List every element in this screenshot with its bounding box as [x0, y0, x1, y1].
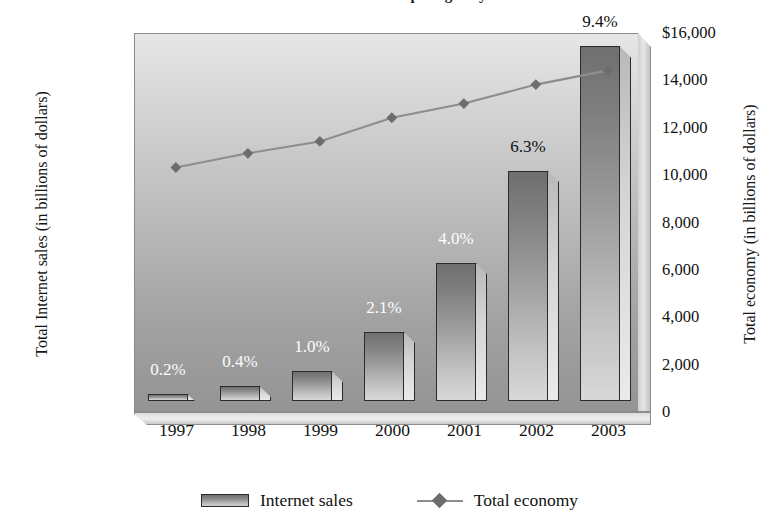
- x-label-2002: 2002: [501, 420, 573, 441]
- line-marker-1998: [242, 148, 253, 159]
- line-series: [134, 33, 651, 425]
- right-axis-ticks: $16,00014,00012,00010,0008,0006,0004,000…: [655, 0, 765, 523]
- right-tick-label: 10,000: [655, 167, 765, 183]
- line-marker-2002: [530, 79, 541, 90]
- right-tick-label: 8,000: [655, 215, 765, 231]
- line-diamond-icon: [417, 494, 463, 507]
- chart-legend: Internet sales Total economy: [0, 486, 779, 514]
- right-tick-label: 6,000: [655, 262, 765, 278]
- line-marker-2003: [602, 65, 613, 76]
- left-axis-ticks: $1,4001,2001,0008006004002000: [0, 0, 129, 523]
- line-marker-1997: [170, 162, 181, 173]
- chart-figure: Commerce and Superhighway Total Internet…: [0, 0, 779, 523]
- right-tick-label: 0: [655, 404, 765, 420]
- x-label-1998: 1998: [213, 420, 285, 441]
- legend-label-internet-sales: Internet sales: [260, 490, 353, 511]
- right-tick-label: $16,000: [655, 25, 765, 41]
- x-axis-labels: 1997199819992000200120022003: [134, 420, 651, 446]
- right-tick-label: 2,000: [655, 357, 765, 373]
- line-marker-2001: [458, 98, 469, 109]
- right-tick-label: 14,000: [655, 72, 765, 88]
- bar-data-label: 9.4%: [582, 12, 617, 32]
- line-marker-1999: [314, 136, 325, 147]
- line-marker-2000: [386, 112, 397, 123]
- x-label-2003: 2003: [573, 420, 645, 441]
- bar-swatch-icon: [201, 494, 249, 507]
- right-tick-label: 12,000: [655, 120, 765, 136]
- legend-item-total-economy: Total economy: [417, 490, 578, 511]
- x-label-1997: 1997: [141, 420, 213, 441]
- legend-label-total-economy: Total economy: [474, 490, 578, 511]
- plot-area: 0.2%0.4%1.0%2.1%4.0%6.3%9.4%: [134, 33, 651, 414]
- legend-item-internet-sales: Internet sales: [201, 490, 353, 511]
- x-label-1999: 1999: [285, 420, 357, 441]
- x-label-2000: 2000: [357, 420, 429, 441]
- x-label-2001: 2001: [429, 420, 501, 441]
- right-tick-label: 4,000: [655, 309, 765, 325]
